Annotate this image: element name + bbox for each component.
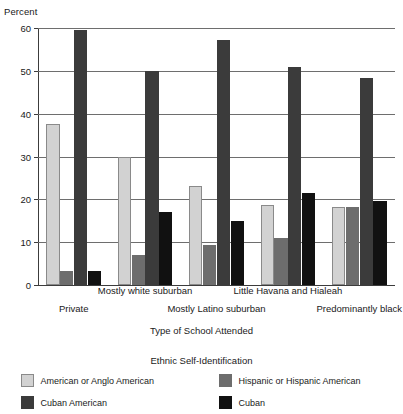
x-category-label: Little Havana and Hialeah [233,285,342,296]
x-category-label: Mostly white suburban [98,285,193,296]
y-tick-label: 50 [20,65,31,76]
y-tick-label: 30 [20,151,31,162]
bars-layer [38,28,395,285]
legend-item: American or Anglo American [21,374,155,387]
bar-chart: Percent 0102030405060 PrivateMostly whit… [0,0,403,414]
legend-swatch-icon [21,396,34,409]
bar [373,201,386,285]
legend: Ethnic Self-Identification American or A… [0,355,403,414]
bar [346,207,359,285]
y-tick-label: 20 [20,194,31,205]
bar [261,205,274,285]
legend-items: American or Anglo AmericanHispanic or Hi… [21,374,383,414]
bar [231,221,244,285]
bar [203,245,216,285]
legend-swatch-icon [219,374,232,387]
bar [118,157,131,286]
x-category-label: Private [59,303,89,314]
bar [60,271,73,285]
y-tick-label: 60 [20,23,31,34]
bar [74,30,87,285]
bar [302,193,315,285]
bar [46,124,59,285]
bar [274,238,287,285]
bar [189,186,202,285]
y-axis-title: Percent [4,6,37,17]
legend-item-label: Cuban [239,398,266,408]
bar [145,71,158,285]
bar [132,255,145,285]
legend-item: Hispanic or Hispanic American [219,374,361,387]
legend-item: Cuban American [21,396,108,409]
bar [288,67,301,285]
x-category-label: Predominantly black [317,303,403,314]
legend-item: Cuban [219,396,266,409]
legend-swatch-icon [21,374,34,387]
x-axis-title: Type of School Attended [0,325,403,336]
bar [159,212,172,285]
y-tick-label: 40 [20,108,31,119]
legend-title: Ethnic Self-Identification [0,355,403,366]
bar [332,207,345,285]
bar [217,40,230,285]
legend-item-label: Hispanic or Hispanic American [239,376,361,386]
x-axis-category-labels: PrivateMostly white suburbanMostly Latin… [0,285,403,325]
plot-area: 0102030405060 [38,28,395,285]
legend-item-label: American or Anglo American [41,376,155,386]
legend-swatch-icon [219,396,232,409]
x-category-label: Mostly Latino suburban [167,303,265,314]
bar [88,271,101,285]
legend-item-label: Cuban American [41,398,108,408]
bar [360,78,373,285]
y-tick-label: 10 [20,237,31,248]
